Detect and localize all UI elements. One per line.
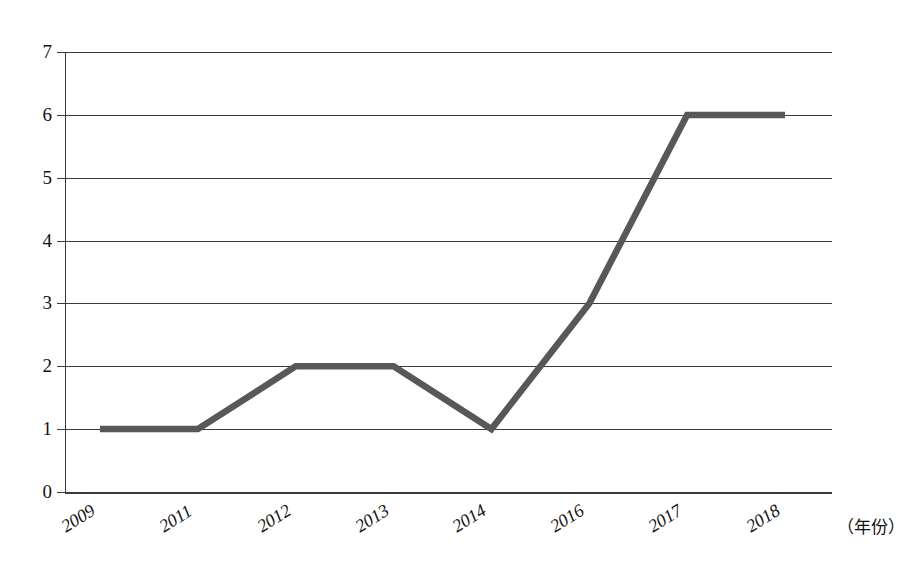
x-axis-label: 2014 (449, 501, 489, 535)
y-axis-line (65, 52, 66, 493)
x-axis-label: 2017 (645, 501, 685, 535)
x-axis-label: 2011 (156, 502, 195, 536)
x-axis-label: 2009 (58, 501, 98, 535)
x-axis-label: 2018 (743, 501, 783, 535)
x-axis-label: 2013 (352, 501, 392, 535)
y-axis-label: 1 (24, 419, 52, 438)
gridline (65, 366, 832, 367)
gridline (65, 429, 832, 430)
x-axis-label: 2012 (254, 501, 294, 535)
x-axis-label: 2016 (547, 501, 587, 535)
gridline (65, 52, 832, 53)
gridline (65, 178, 832, 179)
y-axis-label: 0 (24, 482, 52, 501)
y-axis-label: 5 (24, 168, 52, 187)
x-axis-line (65, 492, 832, 494)
y-axis-label: 2 (24, 356, 52, 375)
x-axis-unit-label: （年份） (837, 519, 899, 536)
chart-canvas: 76543210 2009201120122013201420162017201… (0, 0, 899, 576)
gridline (65, 241, 832, 242)
data-series-line (0, 0, 899, 576)
y-axis-label: 4 (24, 231, 52, 250)
y-axis-label: 3 (24, 293, 52, 312)
y-axis-label: 7 (24, 42, 52, 61)
y-axis-label: 6 (24, 105, 52, 124)
gridline (65, 303, 832, 304)
series-polyline (100, 115, 785, 429)
gridline (65, 115, 832, 116)
